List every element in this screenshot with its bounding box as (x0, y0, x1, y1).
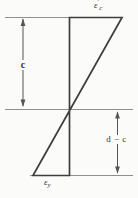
subscript-y-glyph: y (48, 181, 51, 189)
d-minus-c-dimension-up-arrow-icon (115, 111, 120, 118)
d-minus-c-dimension-label: d − c (100, 135, 133, 144)
epsilon-glyph: ε (94, 0, 98, 10)
top-strain-label: ε′c (93, 1, 103, 11)
subscript-c-glyph: c (99, 4, 102, 12)
c-dimension-up-arrow-icon (21, 19, 26, 26)
c-dimension-down-arrow-icon (21, 100, 26, 107)
epsilon-glyph: ε (44, 177, 48, 187)
d-minus-c-dimension-down-arrow-icon (115, 166, 120, 173)
bottom-strain-label: εy (43, 178, 52, 188)
strain-profile-outline (33, 18, 122, 176)
strain-diagram-canvas (0, 0, 138, 198)
c-dimension-label: c (16, 60, 30, 70)
strain-diagram: ε′c c d − c εy (0, 0, 138, 198)
